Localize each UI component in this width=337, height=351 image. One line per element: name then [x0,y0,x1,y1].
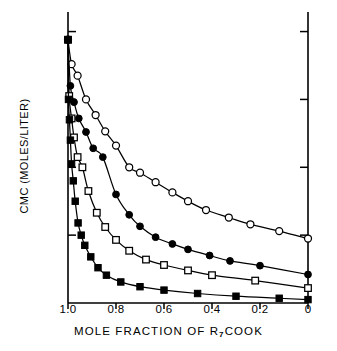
data-point-open-square [143,256,150,263]
data-point-open-circle [169,189,176,196]
data-point-open-circle [83,96,90,103]
x-axis-ticks [68,303,308,309]
data-point-filled-circle [185,246,192,253]
data-point-open-square [126,247,133,254]
data-point-open-square [85,188,92,195]
plot-area [0,0,337,351]
data-point-open-square [74,154,81,161]
data-point-filled-square [82,242,88,248]
data-point-filled-square [137,284,143,290]
data-point-open-square [102,224,109,231]
data-point-open-square [113,237,120,244]
data-point-filled-square [65,96,71,102]
data-series-filled-square [65,37,311,303]
data-point-filled-circle [152,234,159,241]
data-point-filled-square [75,220,81,226]
data-point-filled-circle [257,262,264,269]
data-point-filled-circle [227,258,234,265]
data-point-filled-square [194,290,200,296]
data-point-filled-circle [75,115,82,122]
series-line [68,40,308,239]
data-point-open-circle [126,164,133,171]
data-point-open-square [209,272,216,279]
data-point-filled-square [68,161,74,167]
data-point-open-square [94,209,101,216]
data-point-filled-square [78,232,84,238]
data-point-open-square [185,267,192,274]
data-point-filled-circle [99,154,106,161]
data-point-filled-circle [90,145,97,152]
data-series-filled-circle [65,36,312,278]
data-point-open-square [252,277,259,284]
data-series-open-circle [65,36,312,242]
data-point-filled-square [65,37,71,43]
data-point-filled-square [67,137,73,143]
data-point-open-circle [102,128,109,135]
data-point-filled-square [88,254,94,260]
data-point-open-circle [185,198,192,205]
data-point-filled-square [161,287,167,293]
plot-svg [0,0,337,351]
data-point-filled-square [305,296,311,302]
data-point-filled-square [70,178,76,184]
data-point-open-circle [276,228,283,235]
data-point-filled-square [66,117,72,123]
data-point-filled-square [233,293,239,299]
data-point-filled-square [276,295,282,301]
data-point-filled-square [95,265,101,271]
data-point-filled-circle [83,129,90,136]
data-point-open-circle [92,112,99,119]
data-point-filled-circle [206,252,213,259]
series-line [68,40,308,300]
data-point-open-square [161,262,168,269]
data-point-open-circle [152,179,159,186]
data-point-open-circle [137,169,144,176]
data-point-open-circle [113,142,120,149]
data-point-open-circle [247,221,254,228]
data-point-filled-square [72,198,78,204]
data-point-open-circle [203,207,210,214]
data-point-filled-circle [137,223,144,230]
data-point-open-circle [74,72,81,79]
data-point-open-circle [305,235,312,242]
data-point-filled-square [118,279,124,285]
data-point-open-square [305,285,312,292]
data-point-filled-circle [113,191,120,198]
data-point-open-circle [225,214,232,221]
data-point-filled-circle [126,211,133,218]
data-point-open-square [79,164,86,171]
data-point-filled-circle [305,271,312,278]
data-point-filled-circle [169,241,176,248]
data-point-filled-square [103,272,109,278]
figure-cmc-vs-mole-fraction: 0.400.300.200.100 1.00.80.60.40.20 CMC (… [0,0,337,351]
